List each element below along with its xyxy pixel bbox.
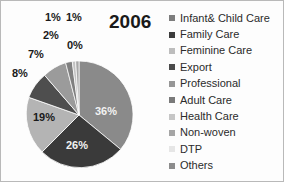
legend-item-dtp[interactable]: DTP (169, 141, 283, 157)
legend-item-label: DTP (180, 144, 202, 155)
chart-title: 2006 (109, 11, 151, 33)
legend-item-label: Professional (180, 78, 241, 89)
chart-figure: 2006 36% 26% 19% 8% 7% 2% 1% 1 (0, 0, 284, 182)
pie-value-label-36: 36% (95, 105, 117, 117)
legend-item-export[interactable]: Export (169, 59, 283, 75)
chart-legend: Infant& Child Care Family Care Feminine … (169, 10, 283, 174)
legend-item-others[interactable]: Others (169, 158, 283, 174)
legend-item-label: Feminine Care (180, 45, 252, 56)
pie-value-label-7: 7% (28, 48, 44, 60)
legend-swatch-icon (169, 146, 175, 152)
pie-value-label-26: 26% (66, 139, 88, 151)
legend-item-label: Infant& Child Care (180, 13, 270, 24)
legend-item-label: Adult Care (180, 95, 232, 106)
pie-value-label-0: 0% (67, 39, 83, 51)
pie-value-label-19: 19% (33, 111, 55, 123)
pie-value-label-1-a: 1% (45, 11, 61, 23)
pie-value-label-2: 2% (43, 29, 59, 41)
legend-swatch-icon (169, 130, 175, 136)
pie-plot-area: 2006 36% 26% 19% 8% 7% 2% 1% 1 (1, 1, 171, 182)
legend-swatch-icon (169, 163, 175, 169)
legend-swatch-icon (169, 114, 175, 120)
legend-item-adult-care[interactable]: Adult Care (169, 92, 283, 108)
legend-swatch-icon (169, 15, 175, 21)
legend-swatch-icon (169, 64, 175, 70)
legend-swatch-icon (169, 32, 175, 38)
legend-item-health-care[interactable]: Health Care (169, 108, 283, 124)
pie-value-label-1-b: 1% (66, 11, 82, 23)
legend-item-family-care[interactable]: Family Care (169, 26, 283, 42)
legend-item-label: Export (180, 62, 212, 73)
legend-swatch-icon (169, 97, 175, 103)
legend-item-label: Family Care (180, 29, 239, 40)
legend-item-label: Non-woven (180, 127, 236, 138)
legend-item-non-woven[interactable]: Non-woven (169, 125, 283, 141)
legend-item-feminine-care[interactable]: Feminine Care (169, 43, 283, 59)
legend-swatch-icon (169, 48, 175, 54)
legend-item-professional[interactable]: Professional (169, 76, 283, 92)
legend-item-label: Health Care (180, 111, 239, 122)
legend-swatch-icon (169, 81, 175, 87)
legend-item-label: Others (180, 160, 213, 171)
legend-item-infant-child-care[interactable]: Infant& Child Care (169, 10, 283, 26)
pie-value-label-8: 8% (12, 67, 28, 79)
